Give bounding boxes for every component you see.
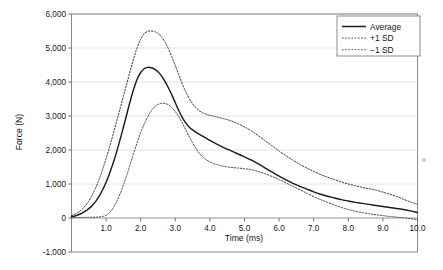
- data-series-group: [72, 31, 418, 220]
- legend-label-1: +1 SD: [370, 33, 394, 43]
- legend-label-0: Average: [370, 22, 401, 32]
- x-tick-label: 8.0: [343, 224, 355, 233]
- y-tick-label: 1,000: [46, 180, 67, 189]
- chart-legend: Average+1 SD−1 SD: [337, 16, 420, 56]
- series-line-1-sd: [72, 103, 418, 219]
- scan-artifact-speck: [422, 158, 426, 162]
- series-line-1-sd: [72, 31, 418, 216]
- x-tick-label: 7.0: [308, 224, 320, 233]
- y-tick-label: 0: [61, 214, 66, 223]
- y-tick-label: 4,000: [46, 78, 67, 87]
- y-tick-label: 2,000: [46, 146, 67, 155]
- y-tick-label: 5,000: [46, 44, 67, 53]
- x-tick-label: 9.0: [377, 224, 389, 233]
- x-tick-label: 3.0: [170, 224, 182, 233]
- force-time-line-chart: 6,0005,0004,0003,0002,0001,0000-1,000 1.…: [0, 0, 443, 270]
- x-axis-tick-labels: 1.02.03.04.05.06.07.08.09.010.0: [100, 224, 426, 233]
- y-tick-label: -1,000: [43, 248, 67, 257]
- y-axis-tick-labels: 6,0005,0004,0003,0002,0001,0000-1,000: [43, 10, 67, 257]
- x-tick-label: 5.0: [239, 224, 251, 233]
- x-tick-label: 4.0: [204, 224, 216, 233]
- chart-figure: 6,0005,0004,0003,0002,0001,0000-1,000 1.…: [0, 0, 443, 270]
- y-axis-title: Force (N): [14, 114, 24, 150]
- x-axis-ticks: [106, 218, 417, 221]
- x-tick-label: 1.0: [100, 224, 112, 233]
- legend-label-2: −1 SD: [370, 45, 394, 55]
- series-line-average: [72, 67, 418, 216]
- x-tick-label: 2.0: [135, 224, 147, 233]
- x-tick-label: 6.0: [273, 224, 285, 233]
- y-tick-label: 6,000: [46, 10, 67, 19]
- y-tick-label: 3,000: [46, 112, 67, 121]
- x-tick-label: 10.0: [410, 224, 426, 233]
- x-axis-title: Time (ms): [225, 233, 263, 243]
